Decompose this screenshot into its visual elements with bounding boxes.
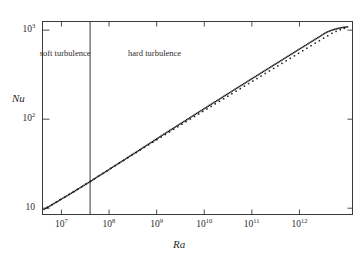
x-tick-label: 1012 (291, 220, 307, 230)
x-tick-label: 108 (103, 220, 116, 230)
y-tick-label: 102 (23, 114, 36, 124)
figure-container: soft turbulence hard turbulence Nu Ra 10… (0, 0, 363, 257)
y-tick-label: 10 (26, 203, 36, 213)
x-tick-label: 1011 (244, 220, 260, 230)
y-tick-label: 103 (23, 25, 36, 35)
y-axis-title: Nu (12, 93, 25, 104)
x-axis-title: Ra (173, 239, 185, 250)
annotation-hard-turbulence: hard turbulence (128, 49, 181, 58)
x-tick-label: 109 (150, 220, 163, 230)
x-tick-label: 107 (55, 220, 68, 230)
annotation-soft-turbulence: soft turbulence (40, 49, 91, 58)
x-tick-label: 1010 (196, 220, 212, 230)
